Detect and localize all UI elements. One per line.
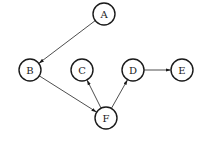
- node-label: E: [178, 65, 185, 76]
- edge-a-to-b: [39, 21, 95, 63]
- node-label: A: [99, 9, 108, 20]
- edge-f-to-d: [111, 80, 127, 108]
- nodes-group: ABCDEF: [19, 3, 193, 129]
- node-f: F: [95, 107, 117, 129]
- node-a: A: [93, 3, 115, 25]
- node-label: C: [78, 65, 86, 76]
- edges-group: [39, 21, 170, 112]
- node-label: F: [103, 113, 110, 124]
- node-label: B: [26, 65, 33, 76]
- graph-canvas: ABCDEF: [0, 0, 202, 142]
- node-b: B: [19, 59, 41, 81]
- node-e: E: [171, 59, 193, 81]
- node-d: D: [122, 59, 144, 81]
- node-label: D: [129, 65, 137, 76]
- edge-f-to-c: [87, 80, 101, 108]
- node-c: C: [71, 59, 93, 81]
